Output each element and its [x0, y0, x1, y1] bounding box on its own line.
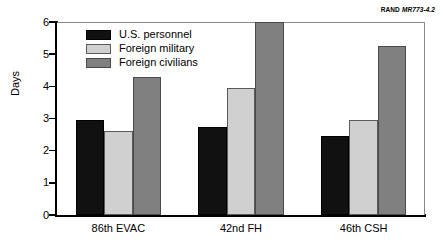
y-axis-tick-label: 5: [9, 49, 49, 60]
x-axis-category-label: 46th CSH: [302, 222, 425, 234]
figure-identifier: RAND MR773-4.2: [381, 6, 435, 13]
bar: [76, 120, 105, 215]
y-axis-tick-mark: [49, 118, 56, 120]
bar: [104, 131, 133, 215]
y-axis-tick-mark: [49, 21, 56, 23]
legend-item-label: U.S. personnel: [119, 29, 192, 40]
y-axis-tick-label: 6: [9, 17, 49, 28]
y-axis-tick-label: 0: [9, 210, 49, 221]
y-axis-tick-label: 1: [9, 177, 49, 188]
legend-item: Foreign civilians: [86, 56, 198, 69]
bar: [198, 127, 227, 215]
bar: [378, 46, 407, 215]
y-axis-tick-label: 3: [9, 113, 49, 124]
legend-color-swatch: [86, 44, 111, 54]
x-axis-category-label: 86th EVAC: [57, 222, 180, 234]
bar: [349, 120, 378, 215]
chart-legend: U.S. personnelForeign militaryForeign ci…: [86, 28, 198, 70]
y-axis-tick-mark: [49, 214, 56, 216]
y-axis-tick-mark: [49, 53, 56, 55]
y-axis-tick-label: 4: [9, 81, 49, 92]
rand-figure-number: MR773-4.2: [402, 6, 435, 13]
bar: [227, 88, 256, 215]
x-axis-category-label: 42nd FH: [180, 222, 303, 234]
legend-color-swatch: [86, 58, 111, 68]
legend-item-label: Foreign military: [119, 43, 194, 54]
bar: [321, 136, 350, 215]
legend-color-swatch: [86, 30, 111, 40]
legend-item: U.S. personnel: [86, 28, 198, 41]
rand-organization-label: RAND: [381, 6, 400, 13]
y-axis-tick-mark: [49, 86, 56, 88]
bar: [255, 22, 284, 215]
y-axis-tick-label: 2: [9, 145, 49, 156]
bar: [133, 77, 162, 215]
legend-item: Foreign military: [86, 42, 198, 55]
y-axis-tick-mark: [49, 150, 56, 152]
legend-item-label: Foreign civilians: [119, 57, 198, 68]
y-axis-tick-mark: [49, 182, 56, 184]
